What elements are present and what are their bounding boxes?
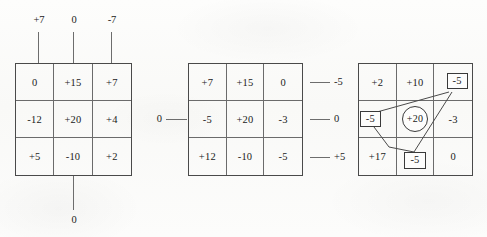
cell-value: +10 xyxy=(406,77,423,88)
cell-value: -3 xyxy=(279,114,288,125)
cell-value: +12 xyxy=(199,151,216,162)
cell-value: +20 xyxy=(64,114,81,125)
cell-r1c3: 0 xyxy=(264,64,302,101)
cell-value: +15 xyxy=(236,77,253,88)
cell-value: -10 xyxy=(238,151,253,162)
cell-r3c2: -10 xyxy=(227,138,265,175)
grid-left-bottom-tick-line xyxy=(73,176,74,210)
grid-left-tick-line-1 xyxy=(38,32,39,63)
grid-left-top-label-2: 0 xyxy=(58,14,90,25)
grid-left-tick-line-2 xyxy=(73,32,74,63)
cell-r2c2-circled: +20 xyxy=(397,101,435,138)
cell-r2c1: -12 xyxy=(16,101,54,138)
grid-middle-right-tick-line-3 xyxy=(310,157,330,158)
grid-left-table: 0 +15 +7 -12 +20 +4 +5 -10 +2 xyxy=(15,63,132,176)
cell-value-circled: +20 xyxy=(402,106,428,132)
cell-r2c1-boxed: -5 xyxy=(359,101,397,138)
cell-r1c2: +10 xyxy=(397,64,435,101)
cell-r3c3: +2 xyxy=(93,138,131,175)
cell-r1c1: +7 xyxy=(189,64,227,101)
cell-r3c1: +12 xyxy=(189,138,227,175)
cell-value: +5 xyxy=(29,151,41,162)
cell-value: -5 xyxy=(279,151,288,162)
cell-r2c1: -5 xyxy=(189,101,227,138)
cell-r1c1: 0 xyxy=(16,64,54,101)
grid-middle-left-label-1: 0 xyxy=(146,113,162,124)
grid-middle-left-tick-line xyxy=(166,119,187,120)
cell-r2c3: -3 xyxy=(264,101,302,138)
grid-middle-right-label-1: -5 xyxy=(334,76,358,87)
cell-value: 0 xyxy=(32,77,37,88)
cell-r3c3: 0 xyxy=(434,138,472,175)
cell-value: -12 xyxy=(27,114,42,125)
cell-value: +17 xyxy=(369,151,386,162)
cell-r2c2: +20 xyxy=(54,101,92,138)
cell-r2c3: +4 xyxy=(93,101,131,138)
cell-value: +2 xyxy=(372,77,384,88)
cell-r1c3-boxed: -5 xyxy=(434,64,472,101)
grid-middle-table: +7 +15 0 -5 +20 -3 +12 -10 -5 xyxy=(188,63,303,176)
grid-left-top-label-3: -7 xyxy=(96,14,128,25)
cell-value: +7 xyxy=(106,77,118,88)
cell-r3c1: +17 xyxy=(359,138,397,175)
cell-r3c2: -10 xyxy=(54,138,92,175)
cell-value: -5 xyxy=(203,114,212,125)
grid-middle-right-label-2: 0 xyxy=(334,113,358,124)
grid-left-tick-line-3 xyxy=(111,32,112,63)
cell-value: +7 xyxy=(202,77,214,88)
cell-r1c2: +15 xyxy=(227,64,265,101)
cell-r2c2: +20 xyxy=(227,101,265,138)
cell-value-boxed: -5 xyxy=(360,111,381,128)
cell-r2c3: -3 xyxy=(434,101,472,138)
grid-middle-right-label-3: +5 xyxy=(334,151,358,162)
cell-value: +20 xyxy=(236,114,253,125)
cell-r3c3: -5 xyxy=(264,138,302,175)
cell-r3c2-boxed: -5 xyxy=(397,138,435,175)
cell-r1c1: +2 xyxy=(359,64,397,101)
cell-value: +15 xyxy=(64,77,81,88)
cell-value: +4 xyxy=(106,114,118,125)
cell-value: 0 xyxy=(280,77,285,88)
cell-value-boxed: -5 xyxy=(447,73,468,90)
grid-left-top-label-1: +7 xyxy=(23,14,55,25)
cell-value: +2 xyxy=(106,151,118,162)
cell-value-boxed: -5 xyxy=(404,152,425,169)
figure-three-grids: +7 0 -7 0 +15 +7 -12 +20 +4 +5 -10 +2 0 … xyxy=(0,0,487,237)
grid-middle-right-tick-line-2 xyxy=(310,119,330,120)
grid-left-bottom-label: 0 xyxy=(58,214,90,225)
cell-r1c2: +15 xyxy=(54,64,92,101)
grid-middle-right-tick-line-1 xyxy=(310,82,330,83)
cell-value: 0 xyxy=(450,151,455,162)
grid-right-table: +2 +10 -5 -5 +20 -3 +17 -5 0 xyxy=(358,63,473,176)
cell-value: -3 xyxy=(449,114,458,125)
cell-r1c3: +7 xyxy=(93,64,131,101)
cell-r3c1: +5 xyxy=(16,138,54,175)
cell-value: -10 xyxy=(66,151,81,162)
